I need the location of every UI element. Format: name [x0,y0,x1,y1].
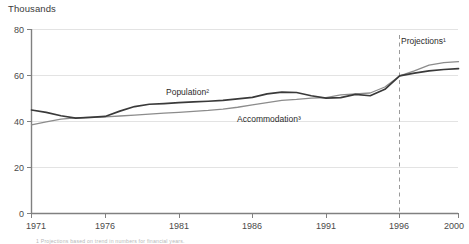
x-tick-label-1971: 1971 [26,221,46,231]
x-tick-label-1976: 1976 [95,221,115,231]
chart-footnote: 1 Projections based on trend in numbers … [36,238,185,244]
x-tick-label-1991: 1991 [316,221,336,231]
y-tick-label-40: 40 [14,117,24,127]
x-tick-label-1996: 1996 [389,221,409,231]
series-label-population: Population² [166,87,209,97]
projections-annotation-label: Projections¹ [401,36,446,46]
series-line-population [32,69,459,118]
y-tick-label-80: 80 [14,25,24,35]
y-tick-label-60: 60 [14,71,24,81]
x-tick-labels-group: 1971 1976 1981 1986 1991 1996 2000 [26,221,464,231]
series-label-accommodation: Accommodation³ [237,114,301,124]
x-tick-label-2000: 2000 [444,221,464,231]
y-tick-marks [27,30,31,214]
x-tick-label-1986: 1986 [242,221,262,231]
y-tick-labels-group: 80 60 40 20 0 [14,25,24,219]
y-tick-label-20: 20 [14,163,24,173]
x-tick-label-1981: 1981 [169,221,189,231]
y-tick-label-0: 0 [19,209,24,219]
